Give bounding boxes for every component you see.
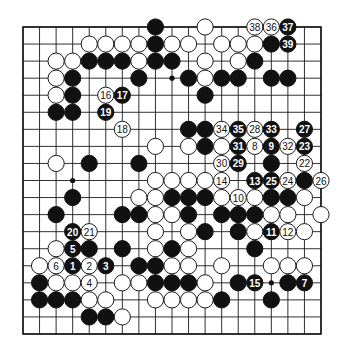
black-stone-move-33: 33 xyxy=(263,121,279,137)
white-stone xyxy=(214,138,230,154)
stone-disc xyxy=(48,275,64,291)
white-stone-move-2: 2 xyxy=(81,258,97,274)
black-stone-move-29: 29 xyxy=(230,155,246,171)
move-number-label: 32 xyxy=(282,141,294,152)
move-number-label: 26 xyxy=(315,176,327,187)
black-stone xyxy=(48,104,64,120)
stone-disc xyxy=(280,189,296,205)
black-stone xyxy=(180,207,196,223)
move-number-label: 35 xyxy=(233,124,245,135)
white-stone xyxy=(147,241,163,257)
white-stone xyxy=(247,224,263,240)
white-stone-move-6: 6 xyxy=(48,258,64,274)
stone-disc xyxy=(214,189,230,205)
stone-disc xyxy=(247,224,263,240)
stone-disc xyxy=(114,53,130,69)
black-stone xyxy=(230,70,246,86)
white-stone xyxy=(164,172,180,188)
stone-disc xyxy=(65,87,81,103)
stone-disc xyxy=(48,87,64,103)
white-stone-move-38: 38 xyxy=(247,19,263,35)
black-stone xyxy=(197,224,213,240)
move-number-label: 22 xyxy=(299,158,311,169)
white-stone xyxy=(147,224,163,240)
stone-disc xyxy=(164,275,180,291)
black-stone xyxy=(230,224,246,240)
stone-disc xyxy=(131,207,147,223)
stone-disc xyxy=(81,241,97,257)
stone-disc xyxy=(197,121,213,137)
move-number-label: 13 xyxy=(249,176,261,187)
stone-disc xyxy=(263,207,279,223)
white-stone xyxy=(180,36,196,52)
white-stone xyxy=(280,258,296,274)
white-stone-move-18: 18 xyxy=(114,121,130,137)
stone-disc xyxy=(164,189,180,205)
black-stone xyxy=(131,70,147,86)
black-stone xyxy=(197,121,213,137)
stone-disc xyxy=(263,36,279,52)
stone-disc xyxy=(31,292,47,308)
white-stone xyxy=(147,292,163,308)
white-stone-move-32: 32 xyxy=(280,138,296,154)
stone-disc xyxy=(197,172,213,188)
go-board-diagram: 3836373916171918343528332731893223302922… xyxy=(0,0,349,357)
white-stone xyxy=(164,36,180,52)
white-stone-move-26: 26 xyxy=(313,172,329,188)
black-stone xyxy=(31,292,47,308)
stone-disc xyxy=(164,292,180,308)
stone-disc xyxy=(180,241,196,257)
stone-disc xyxy=(147,36,163,52)
move-number-label: 5 xyxy=(70,244,76,255)
move-number-label: 11 xyxy=(266,227,277,238)
stone-disc xyxy=(296,258,312,274)
white-stone-move-30: 30 xyxy=(214,155,230,171)
black-stone xyxy=(197,189,213,205)
stone-disc xyxy=(180,224,196,240)
black-stone xyxy=(131,258,147,274)
stone-disc xyxy=(164,36,180,52)
white-stone xyxy=(48,241,64,257)
stone-disc xyxy=(147,138,163,154)
black-stone-move-20: 20 xyxy=(65,224,81,240)
move-number-label: 16 xyxy=(100,90,112,101)
stone-disc xyxy=(147,189,163,205)
stone-disc xyxy=(65,292,81,308)
stone-disc xyxy=(197,70,213,86)
stone-disc xyxy=(147,241,163,257)
black-stone xyxy=(81,241,97,257)
stone-disc xyxy=(180,70,196,86)
black-stone xyxy=(197,138,213,154)
black-stone xyxy=(81,53,97,69)
black-stone-move-23: 23 xyxy=(296,138,312,154)
stone-disc xyxy=(131,70,147,86)
black-stone xyxy=(214,292,230,308)
white-stone xyxy=(131,36,147,52)
white-stone xyxy=(197,172,213,188)
black-stone-move-1: 1 xyxy=(65,258,81,274)
white-stone-move-21: 21 xyxy=(81,224,97,240)
stone-disc xyxy=(313,207,329,223)
black-stone xyxy=(247,207,263,223)
stone-disc xyxy=(247,241,263,257)
move-number-label: 36 xyxy=(266,22,278,33)
black-stone-move-39: 39 xyxy=(280,36,296,52)
stone-disc xyxy=(247,189,263,205)
stone-disc xyxy=(197,224,213,240)
white-stone xyxy=(180,224,196,240)
black-stone-move-11: 11 xyxy=(263,224,279,240)
stone-disc xyxy=(81,292,97,308)
white-stone-move-14: 14 xyxy=(214,172,230,188)
stone-disc xyxy=(197,189,213,205)
white-stone-move-16: 16 xyxy=(98,87,114,103)
white-stone xyxy=(180,241,196,257)
stone-disc xyxy=(65,275,81,291)
black-stone xyxy=(280,189,296,205)
black-stone xyxy=(180,70,196,86)
move-number-label: 3 xyxy=(103,261,109,272)
move-number-label: 8 xyxy=(252,141,258,152)
stone-disc xyxy=(197,19,213,35)
stone-disc xyxy=(98,292,114,308)
stone-disc xyxy=(131,258,147,274)
white-stone xyxy=(65,275,81,291)
